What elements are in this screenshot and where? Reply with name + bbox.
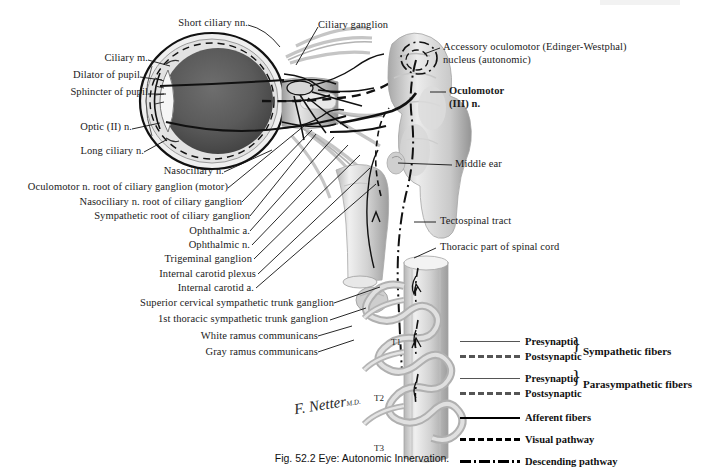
signature-suffix: M.D. [346,398,361,408]
label-ophthalmic-n: Ophthalmic n. [60,239,250,251]
label-internal-carotid-plexus: Internal carotid plexus [60,268,256,280]
legend-swatch-dash-black [460,438,520,441]
label-tectospinal-tract: Tectospinal tract [440,215,511,227]
label-optic-n: Optic (II) n. [0,121,132,133]
label-nasociliary-root: Nasociliary n. root of ciliary ganglion [0,196,242,208]
label-dilator-of-pupil: Dilator of pupil [0,69,140,81]
label-t1: T1 [391,337,401,347]
label-accessory-oculomotor-nucleus-line1: Accessory oculomotor (Edinger-Westphal) [443,41,627,53]
label-gray-ramus: Gray ramus communicans [60,346,318,358]
label-white-ramus: White ramus communicans [60,330,318,342]
label-internal-carotid-a: Internal carotid a. [60,282,254,294]
label-oculomotor-n-line2: (III) n. [449,98,480,110]
figure-canvas: Short ciliary nn. Ciliary m. Dilator of … [0,0,724,476]
label-superior-cervical-ganglion: Superior cervical sympathetic trunk gang… [30,297,334,309]
label-ciliary-m: Ciliary m. [0,52,148,64]
legend-label: Presynaptic [525,336,578,347]
label-t2: T2 [374,393,384,403]
label-sphincter-of-pupil: Sphincter of pupil [0,86,148,98]
label-oculomotor-root: Oculomotor n. root of ciliary ganglion (… [0,181,228,193]
legend-group-parasympathetic: Parasympathetic fibers [583,378,692,390]
label-trigeminal-ganglion: Trigeminal ganglion [60,253,252,265]
brace-parasympathetic: } [572,366,581,388]
legend-swatch-dash-gray [460,355,520,358]
legend-label: Visual pathway [525,434,594,445]
label-sympathetic-root: Sympathetic root of ciliary ganglion [0,210,250,222]
label-long-ciliary-n: Long ciliary n. [0,145,144,157]
label-accessory-oculomotor-nucleus-line2: nucleus (autonomic) [443,54,531,66]
legend-row-visual: Visual pathway [460,432,710,447]
label-nasociliary-n: Nasociliary n. [60,165,224,177]
label-first-thoracic-ganglion: 1st thoracic sympathetic trunk ganglion [30,313,328,325]
legend-swatch-solid-gray [460,378,520,379]
label-thoracic-spinal-cord: Thoracic part of spinal cord [440,241,559,253]
figure-caption: Fig. 52.2 Eye: Autonomic Innervation. [0,452,724,464]
legend-label: Presynaptic [525,373,578,384]
label-ciliary-ganglion: Ciliary ganglion [318,19,388,31]
legend-group-sympathetic: Sympathetic fibers [583,345,671,357]
label-short-ciliary-nn: Short ciliary nn. [58,17,248,29]
legend-label: Afferent fibers [525,412,591,423]
legend-swatch-solid-gray [460,341,520,342]
brace-sympathetic: } [572,333,581,355]
legend-swatch-solid-black [460,417,520,419]
label-oculomotor-n-line1: Oculomotor [449,85,504,97]
legend-label: Postsynaptic [525,388,582,399]
label-ophthalmic-a: Ophthalmic a. [60,225,250,237]
label-middle-ear: Middle ear [455,158,502,170]
legend-row-afferent: Afferent fibers [460,410,710,425]
legend-swatch-dash-gray [460,392,520,395]
